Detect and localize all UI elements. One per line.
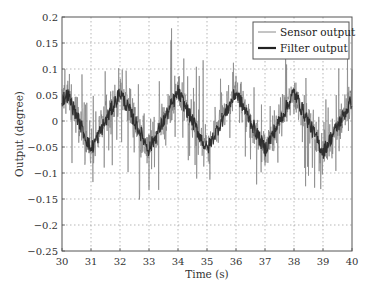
x-axis-label: Time (s)	[185, 268, 228, 280]
y-tick-label: 0.05	[36, 90, 58, 101]
y-tick-label: −0.25	[27, 246, 58, 257]
x-tick-label: 34	[172, 256, 185, 267]
x-tick-label: 39	[317, 256, 330, 267]
x-tick-label: 37	[259, 256, 272, 267]
y-tick-label: 0.1	[42, 64, 58, 75]
x-tick-label: 33	[143, 256, 156, 267]
y-tick-label: 0.2	[42, 12, 58, 23]
y-tick-label: 0.15	[36, 38, 58, 49]
y-axis-ticks: 0.20.150.10.050−0.05−0.1−0.15−0.2−0.25	[27, 12, 65, 257]
y-tick-label: 0	[52, 116, 58, 127]
y-tick-label: −0.15	[27, 194, 58, 205]
y-axis-label: Output (degree)	[13, 91, 25, 177]
x-tick-label: 38	[288, 256, 301, 267]
x-tick-label: 30	[56, 256, 69, 267]
y-tick-label: −0.05	[27, 142, 58, 153]
y-tick-label: −0.1	[34, 168, 58, 179]
x-tick-label: 40	[346, 256, 359, 267]
x-tick-label: 36	[230, 256, 243, 267]
legend-label-sensor: Sensor output	[280, 26, 356, 38]
legend-label-filter: Filter output	[280, 42, 349, 54]
x-tick-label: 32	[114, 256, 127, 267]
x-tick-label: 31	[85, 256, 98, 267]
legend: Sensor output Filter output	[253, 22, 356, 59]
y-tick-label: −0.2	[34, 220, 58, 231]
x-tick-label: 35	[201, 256, 214, 267]
chart: 3031323334353637383940 0.20.150.10.050−0…	[0, 0, 374, 294]
